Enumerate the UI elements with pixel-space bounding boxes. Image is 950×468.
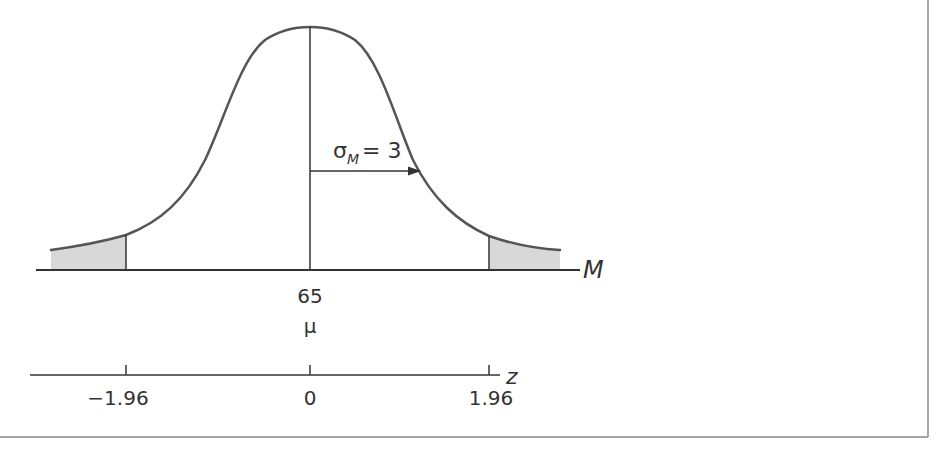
- mu-symbol: μ: [304, 314, 317, 338]
- z-tick-label-neg: −1.96: [87, 386, 148, 410]
- normal-distribution-diagram: σM= 3 M 65 μ z −1.96 0 1.96: [0, 0, 950, 468]
- right-tail-shaded-region: [489, 236, 560, 270]
- left-tail-shaded-region: [51, 235, 126, 270]
- z-tick-label-pos: 1.96: [469, 386, 514, 410]
- m-axis-label: M: [583, 256, 604, 284]
- sigma-arrow-head-icon: [408, 167, 421, 176]
- m-axis-center-value: 65: [297, 284, 322, 308]
- sigma-label: σM= 3: [333, 138, 401, 167]
- normal-curve: [51, 27, 560, 250]
- z-tick-label-zero: 0: [304, 386, 317, 410]
